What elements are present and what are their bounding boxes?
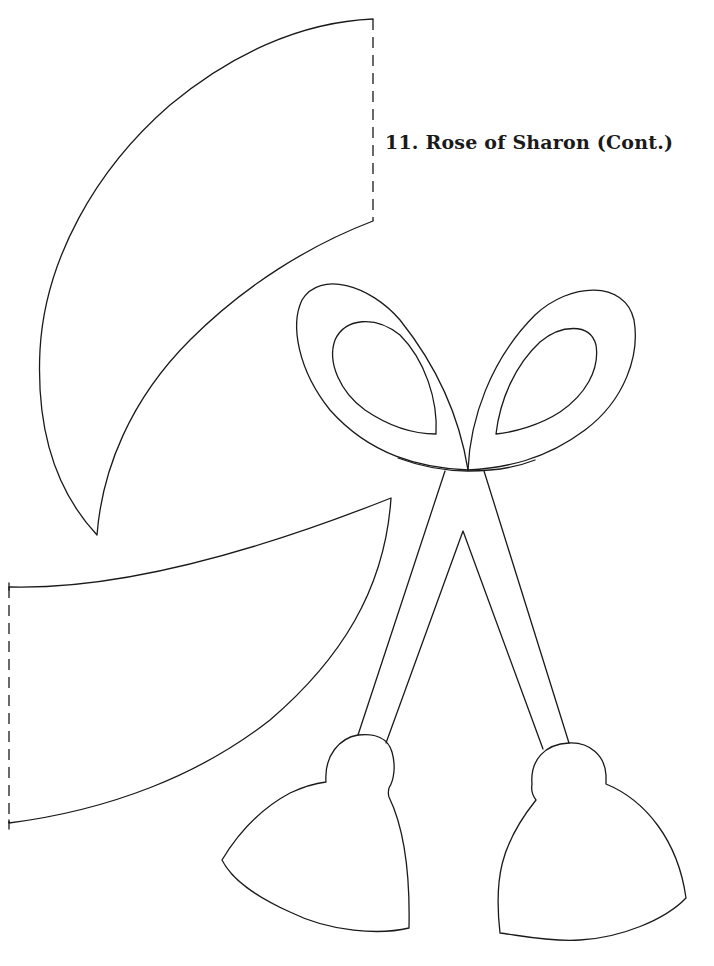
stem-loops bbox=[297, 284, 636, 471]
upper-leaf-piece bbox=[39, 19, 373, 535]
pattern-page: 11. Rose of Sharon (Cont.) bbox=[0, 0, 714, 966]
pattern-drawing bbox=[0, 0, 714, 966]
lower-leaf-piece bbox=[9, 498, 391, 829]
left-bud bbox=[222, 735, 409, 932]
right-bud bbox=[498, 743, 686, 940]
